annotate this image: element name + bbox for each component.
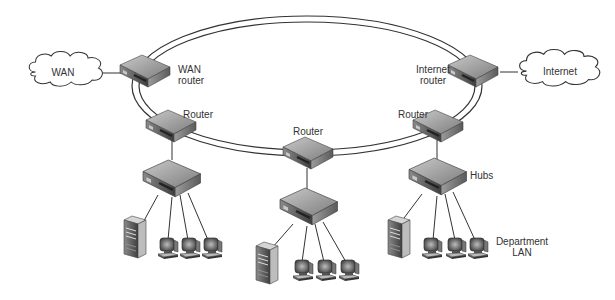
workstation-icon — [293, 260, 313, 281]
workstation-icon — [316, 260, 336, 281]
wan-router-icon — [120, 55, 170, 87]
internet-router-label: Internet router — [412, 64, 454, 86]
workstation-icon — [180, 238, 200, 259]
workstation-icon — [202, 238, 222, 259]
router-left-label: Router — [183, 109, 213, 120]
workstation-icon — [339, 260, 359, 281]
workstation-icon — [446, 238, 466, 259]
server-icon — [388, 216, 410, 258]
internet-cloud-label: Internet — [535, 66, 585, 77]
wan-router-label: WAN router — [178, 64, 218, 86]
wan-router-label-line1: WAN — [178, 64, 218, 75]
workstation-icon — [158, 238, 178, 259]
wan-router-label-line2: router — [178, 75, 218, 86]
department-lan-label: Department LAN — [492, 236, 552, 258]
server-icon — [124, 216, 146, 258]
department-lan-label-line1: Department — [492, 236, 552, 247]
router-right-label: Router — [398, 109, 428, 120]
hub-left-icon — [143, 160, 201, 197]
internet-router-icon — [448, 55, 498, 87]
hub-center-icon — [280, 188, 338, 225]
internet-router-label-line1: Internet — [412, 64, 454, 75]
workstation-icon — [468, 238, 488, 259]
server-icon — [256, 242, 278, 284]
workstation-icon — [422, 238, 442, 259]
router-center-label: Router — [288, 126, 328, 137]
hub-right-icon — [409, 158, 467, 195]
hubs-label: Hubs — [470, 170, 493, 181]
internet-router-label-line2: router — [412, 75, 454, 86]
wan-cloud-label: WAN — [48, 67, 78, 78]
department-lan-label-line2: LAN — [492, 247, 552, 258]
router-center-icon — [283, 137, 333, 169]
